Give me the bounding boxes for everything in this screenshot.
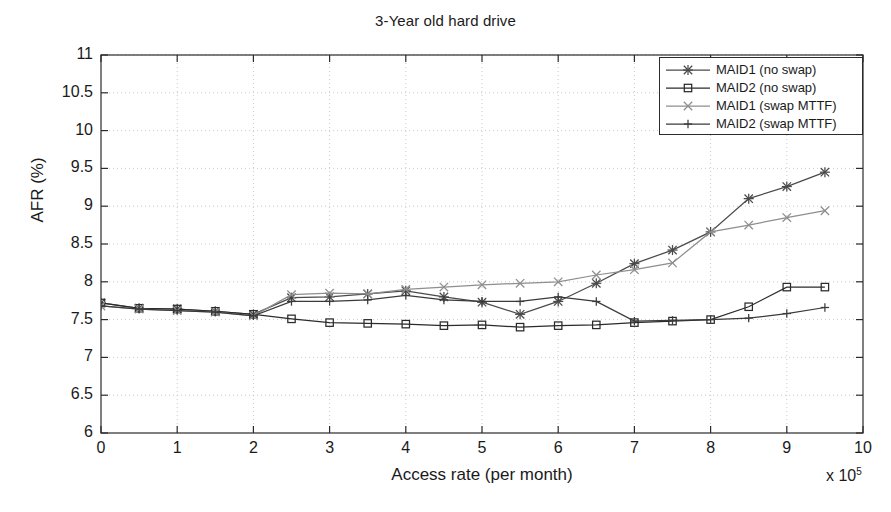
legend-label: MAID1 (no swap) — [716, 61, 816, 79]
data-point-plus — [516, 297, 524, 305]
legend-sample-line — [660, 97, 716, 115]
data-point-plus — [630, 317, 638, 325]
data-point-plus — [592, 297, 600, 305]
legend-item-2[interactable]: MAID2 (no swap) — [660, 79, 862, 97]
y-tick-label: 8.5 — [37, 234, 93, 252]
x-tick-label: 5 — [462, 439, 502, 457]
data-point-asterisk — [515, 309, 525, 319]
y-tick-label: 7.5 — [37, 310, 93, 328]
data-point-asterisk — [591, 278, 601, 288]
x-tick-label: 10 — [843, 439, 883, 457]
data-point-plus — [684, 120, 692, 128]
y-tick-label: 10 — [37, 121, 93, 139]
x-tick-label: 9 — [767, 439, 807, 457]
x-tick-label: 1 — [157, 439, 197, 457]
series-1 — [96, 167, 830, 319]
series-4 — [97, 291, 829, 325]
legend-item-4[interactable]: MAID2 (swap MTTF) — [660, 115, 862, 133]
data-point-asterisk — [782, 182, 792, 192]
data-point-asterisk — [744, 194, 754, 204]
legend-sample-line — [660, 79, 716, 97]
y-tick-label: 7 — [37, 347, 93, 365]
x-tick-label: 2 — [233, 439, 273, 457]
legend-item-3[interactable]: MAID1 (swap MTTF) — [660, 97, 862, 115]
data-point-plus — [745, 314, 753, 322]
x-tick-label: 0 — [81, 439, 121, 457]
series-line — [101, 172, 825, 314]
legend-item-1[interactable]: MAID1 (no swap) — [660, 61, 862, 79]
data-point-plus — [325, 297, 333, 305]
x-tick-label: 4 — [386, 439, 426, 457]
data-point-plus — [706, 315, 714, 323]
y-tick-label: 6.5 — [37, 385, 93, 403]
y-tick-label: 11 — [37, 45, 93, 63]
data-point-asterisk — [629, 259, 639, 269]
series-line — [101, 287, 825, 327]
x-tick-label: 7 — [614, 439, 654, 457]
legend-sample-line — [660, 115, 716, 133]
legend-label: MAID2 (no swap) — [716, 79, 816, 97]
series-group — [96, 167, 830, 331]
x-tick-label: 3 — [310, 439, 350, 457]
data-point-asterisk — [820, 167, 830, 177]
y-tick-label: 8 — [37, 272, 93, 290]
data-point-asterisk — [668, 245, 678, 255]
legend-label: MAID1 (swap MTTF) — [716, 97, 837, 115]
series-2 — [97, 283, 828, 330]
data-point-asterisk — [683, 65, 693, 75]
x-tick-label: 6 — [538, 439, 578, 457]
chart-figure: 3-Year old hard drive AFR (%) Access rat… — [0, 0, 891, 512]
x-tick-label: 8 — [691, 439, 731, 457]
data-point-plus — [783, 309, 791, 317]
data-point-plus — [821, 303, 829, 311]
chart-legend: MAID1 (no swap)MAID2 (no swap)MAID1 (swa… — [659, 57, 863, 135]
y-tick-label: 9.5 — [37, 158, 93, 176]
legend-label: MAID2 (swap MTTF) — [716, 115, 837, 133]
y-tick-label: 9 — [37, 196, 93, 214]
y-tick-label: 10.5 — [37, 83, 93, 101]
legend-sample-line — [660, 61, 716, 79]
